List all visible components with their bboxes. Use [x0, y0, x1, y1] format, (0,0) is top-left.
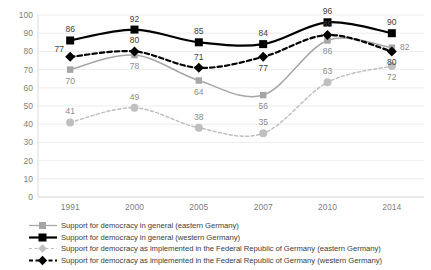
data-point-label: 72 — [387, 72, 397, 82]
chart-legend: Support for democracy in general (easter… — [28, 220, 428, 266]
data-point-marker — [258, 52, 268, 62]
data-point-marker — [195, 38, 203, 46]
data-point-label: 80 — [387, 57, 397, 67]
data-point-marker — [131, 104, 139, 112]
data-point-label: 90 — [387, 17, 397, 27]
svg-text:50: 50 — [24, 101, 34, 111]
data-point-label: 38 — [194, 112, 204, 122]
data-point-label: 82 — [400, 42, 410, 52]
data-point-label: 35 — [258, 117, 268, 127]
svg-text:100: 100 — [19, 10, 33, 20]
svg-text:10: 10 — [24, 174, 34, 184]
data-point-label: 89 — [323, 19, 333, 29]
data-point-label: 63 — [323, 66, 333, 76]
data-point-marker — [131, 26, 139, 34]
data-point-label: 41 — [65, 106, 75, 116]
data-point-marker — [387, 46, 397, 56]
data-point-label: 77 — [258, 63, 268, 73]
svg-text:40: 40 — [24, 119, 34, 129]
legend-item-label: Support for democracy in general (wester… — [61, 233, 240, 242]
svg-text:70: 70 — [24, 65, 34, 75]
data-point-marker — [194, 63, 204, 73]
data-point-marker — [66, 36, 74, 44]
legend-item-2[interactable]: Support for democracy as implemented in … — [28, 243, 428, 255]
legend-marker-black-diamond-dashed-icon — [28, 255, 58, 266]
legend-item-1[interactable]: Support for democracy in general (wester… — [28, 232, 428, 244]
data-point-marker — [259, 129, 267, 137]
svg-text:1991: 1991 — [61, 202, 80, 212]
data-point-marker — [195, 124, 203, 132]
data-point-label: 84 — [258, 28, 268, 38]
legend-item-label: Support for democracy in general (easter… — [61, 221, 239, 230]
data-point-marker — [65, 52, 75, 62]
line-chart: 0102030405060708090100 19912000200520072… — [0, 0, 431, 270]
legend-item-0[interactable]: Support for democracy in general (easter… — [28, 220, 428, 232]
data-point-marker — [196, 77, 203, 84]
data-point-label: 70 — [65, 76, 75, 86]
legend-item-label: Support for democracy as implemented in … — [61, 244, 381, 253]
data-point-marker — [324, 78, 332, 86]
svg-text:80: 80 — [24, 46, 34, 56]
svg-text:2010: 2010 — [318, 202, 337, 212]
data-point-label: 56 — [258, 101, 268, 111]
data-series-layer — [65, 18, 397, 137]
data-point-label: 71 — [194, 52, 204, 62]
data-point-label: 96 — [323, 6, 333, 16]
data-point-label: 86 — [323, 46, 333, 56]
legend-marker-gray-square-solid-icon — [28, 220, 58, 231]
svg-text:0: 0 — [28, 192, 33, 202]
data-point-label: 78 — [130, 61, 140, 71]
series-line — [66, 62, 396, 137]
legend-item-label: Support for democracy as implemented in … — [61, 256, 382, 265]
data-point-label: 49 — [130, 92, 140, 102]
svg-text:60: 60 — [24, 83, 34, 93]
data-point-label: 77 — [54, 44, 64, 54]
svg-text:20: 20 — [24, 156, 34, 166]
svg-text:90: 90 — [24, 28, 34, 38]
legend-marker-black-square-solid-icon — [28, 232, 58, 243]
svg-text:30: 30 — [24, 137, 34, 147]
data-point-label: 92 — [130, 14, 140, 24]
svg-text:2014: 2014 — [382, 202, 401, 212]
data-point-marker — [259, 40, 267, 48]
data-point-label: 80 — [130, 35, 140, 45]
data-point-label: 64 — [194, 87, 204, 97]
data-point-marker — [388, 29, 396, 37]
x-axis-tick-labels: 199120002005200720102014 — [61, 202, 402, 212]
data-point-marker — [67, 66, 74, 73]
data-point-marker — [66, 118, 74, 126]
data-point-marker — [260, 92, 267, 99]
data-point-marker — [323, 30, 333, 40]
svg-text:2000: 2000 — [125, 202, 144, 212]
data-point-label: 85 — [194, 26, 204, 36]
svg-text:2007: 2007 — [254, 202, 273, 212]
legend-item-3[interactable]: Support for democracy as implemented in … — [28, 255, 428, 267]
svg-text:2005: 2005 — [189, 202, 208, 212]
data-point-label: 86 — [65, 24, 75, 34]
legend-marker-gray-diamond-dashed-icon — [28, 243, 58, 254]
y-axis-tick-labels: 0102030405060708090100 — [19, 10, 33, 202]
chart-plot-area: 0102030405060708090100 19912000200520072… — [0, 0, 431, 215]
